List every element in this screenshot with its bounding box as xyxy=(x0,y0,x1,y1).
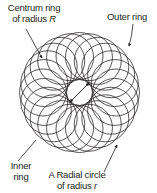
centrum-label-prefix: of radius xyxy=(12,13,49,24)
radial-circle-leader-line xyxy=(104,145,117,172)
centrum-label-line2: of radius R xyxy=(6,14,62,25)
inner-label-line2: ring xyxy=(8,172,34,183)
radial-circle-label: A Radial circle of radius r xyxy=(46,170,108,191)
radial-circle xyxy=(47,34,94,81)
radial-label-prefix: of radius xyxy=(57,180,94,191)
inner-label-line1: Inner xyxy=(8,161,34,172)
outer-ring-label: Outer ring xyxy=(102,12,152,23)
radial-circle xyxy=(47,104,94,151)
radial-circle xyxy=(65,104,112,151)
outer-label-text: Outer ring xyxy=(102,12,152,23)
torus-diagram: Centrum ring of radius R Outer ring Inne… xyxy=(0,0,157,193)
radial-circle xyxy=(91,78,138,125)
radial-circle xyxy=(91,60,138,107)
radial-circle xyxy=(21,60,68,107)
inner-ring-leader-line xyxy=(18,140,36,161)
outer-ring-leader-line xyxy=(129,24,133,46)
radial-circle xyxy=(21,78,68,125)
inner-ring-label: Inner ring xyxy=(8,161,34,182)
centrum-radius-variable: R xyxy=(49,13,56,24)
radial-radius-variable: r xyxy=(94,180,97,191)
centrum-ring-label: Centrum ring of radius R xyxy=(6,3,62,24)
radial-circle xyxy=(65,34,112,81)
radial-label-line2: of radius r xyxy=(46,181,108,192)
